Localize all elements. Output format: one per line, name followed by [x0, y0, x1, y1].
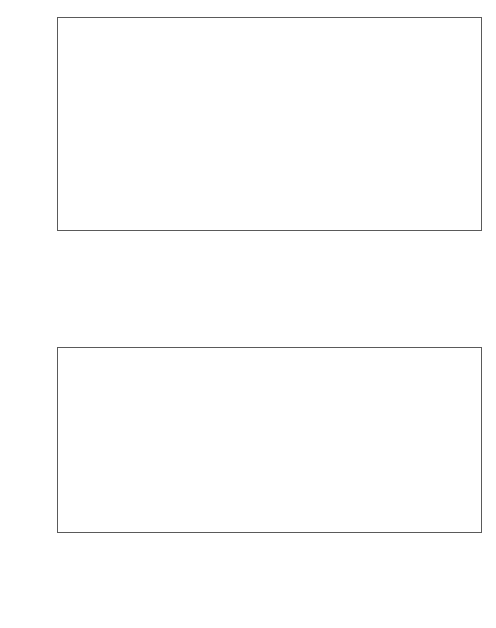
bottom-chart-panel: [0, 330, 496, 628]
top-plot-area: [57, 17, 482, 231]
bottom-plot-area: [57, 347, 482, 533]
top-chart-panel: [0, 0, 496, 330]
